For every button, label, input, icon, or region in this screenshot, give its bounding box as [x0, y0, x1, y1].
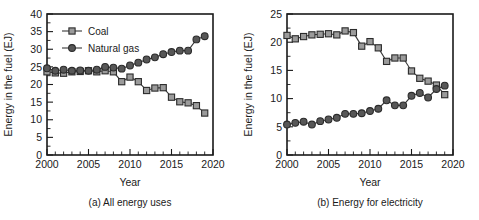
marker-coal — [391, 55, 397, 61]
legend-label-coal: Coal — [88, 26, 109, 37]
series-line-coal — [47, 71, 205, 113]
marker-natural-gas — [127, 62, 134, 69]
marker-natural-gas — [52, 67, 59, 74]
marker-natural-gas — [383, 97, 390, 104]
x-tick-label: 2005 — [316, 158, 340, 170]
y-tick-label: 30 — [30, 43, 42, 55]
legend-marker-coal — [69, 28, 75, 34]
y-tick-label: 25 — [270, 8, 282, 20]
marker-natural-gas — [416, 90, 423, 97]
marker-natural-gas — [110, 64, 117, 71]
marker-coal — [202, 110, 208, 116]
marker-coal — [177, 99, 183, 105]
marker-coal — [416, 75, 422, 81]
marker-natural-gas — [391, 102, 398, 109]
marker-natural-gas — [77, 67, 84, 74]
marker-coal — [325, 31, 331, 37]
marker-natural-gas — [185, 47, 192, 54]
x-tick-label: 2020 — [441, 158, 465, 170]
marker-natural-gas — [85, 67, 92, 74]
chart-panel-a: 200020052010201520200510152025303540Ener… — [0, 0, 240, 220]
marker-natural-gas — [441, 82, 448, 89]
y-tick-label: 0 — [36, 149, 42, 161]
y-tick-label: 20 — [270, 36, 282, 48]
marker-coal — [400, 55, 406, 61]
marker-natural-gas — [152, 54, 159, 61]
x-tick-label: 2020 — [201, 158, 225, 170]
marker-natural-gas — [424, 94, 431, 101]
marker-natural-gas — [44, 65, 51, 72]
marker-natural-gas — [308, 121, 315, 128]
marker-coal — [375, 45, 381, 51]
marker-coal — [425, 78, 431, 84]
marker-coal — [160, 85, 166, 91]
panel-caption: (b) Energy for electricity — [317, 197, 423, 208]
marker-natural-gas — [433, 86, 440, 93]
y-tick-label: 10 — [270, 92, 282, 104]
panel-caption: (a) All energy uses — [89, 197, 172, 208]
y-tick-label: 5 — [276, 121, 282, 133]
y-tick-label: 40 — [30, 8, 42, 20]
marker-natural-gas — [160, 51, 167, 58]
marker-coal — [292, 36, 298, 42]
marker-coal — [185, 100, 191, 106]
chart-svg-panel-a: 200020052010201520200510152025303540Ener… — [0, 0, 240, 220]
marker-coal — [358, 43, 364, 49]
y-axis-title: Energy in the fuel (EJ) — [242, 33, 254, 137]
marker-natural-gas — [193, 36, 200, 43]
y-tick-label: 0 — [276, 149, 282, 161]
marker-natural-gas — [93, 66, 100, 73]
marker-natural-gas — [283, 121, 290, 128]
marker-coal — [300, 33, 306, 39]
x-tick-label: 2005 — [77, 158, 101, 170]
y-tick-label: 15 — [270, 64, 282, 76]
x-tick-label: 2015 — [160, 158, 184, 170]
y-tick-label: 10 — [30, 113, 42, 125]
marker-natural-gas — [374, 105, 381, 112]
marker-coal — [366, 39, 372, 45]
y-axis-title: Energy in the fuel (EJ) — [2, 33, 14, 137]
marker-coal — [283, 32, 289, 38]
marker-natural-gas — [201, 33, 208, 40]
series-line-coal — [287, 31, 445, 95]
y-tick-label: 5 — [36, 131, 42, 143]
marker-natural-gas — [60, 66, 67, 73]
marker-coal — [144, 87, 150, 93]
marker-natural-gas — [135, 59, 142, 66]
marker-natural-gas — [168, 49, 175, 56]
marker-coal — [135, 79, 141, 85]
marker-natural-gas — [69, 67, 76, 74]
marker-coal — [193, 103, 199, 109]
marker-coal — [383, 58, 389, 64]
plot-frame — [47, 14, 213, 155]
marker-natural-gas — [143, 56, 150, 63]
marker-coal — [350, 30, 356, 36]
x-tick-label: 2010 — [358, 158, 382, 170]
marker-natural-gas — [333, 114, 340, 121]
marker-natural-gas — [325, 116, 332, 123]
marker-natural-gas — [408, 92, 415, 99]
marker-natural-gas — [316, 118, 323, 125]
x-tick-label: 2010 — [118, 158, 142, 170]
marker-coal — [308, 32, 314, 38]
x-tick-label: 2015 — [399, 158, 423, 170]
y-tick-label: 20 — [30, 78, 42, 90]
chart-panel-b: 200020052010201520200510152025Energy in … — [240, 0, 479, 220]
marker-coal — [342, 28, 348, 34]
marker-natural-gas — [118, 65, 125, 72]
marker-coal — [168, 94, 174, 100]
marker-coal — [408, 68, 414, 74]
marker-coal — [152, 85, 158, 91]
marker-coal — [127, 74, 133, 80]
x-axis-title: Year — [119, 176, 141, 188]
marker-natural-gas — [358, 110, 365, 117]
marker-natural-gas — [102, 63, 109, 70]
chart-svg-panel-b: 200020052010201520200510152025Energy in … — [240, 0, 479, 220]
marker-natural-gas — [350, 110, 357, 117]
y-tick-label: 35 — [30, 25, 42, 37]
y-tick-label: 15 — [30, 96, 42, 108]
marker-coal — [317, 31, 323, 37]
legend-marker-natural-gas — [69, 45, 76, 52]
marker-natural-gas — [366, 108, 373, 115]
marker-coal — [119, 79, 125, 85]
